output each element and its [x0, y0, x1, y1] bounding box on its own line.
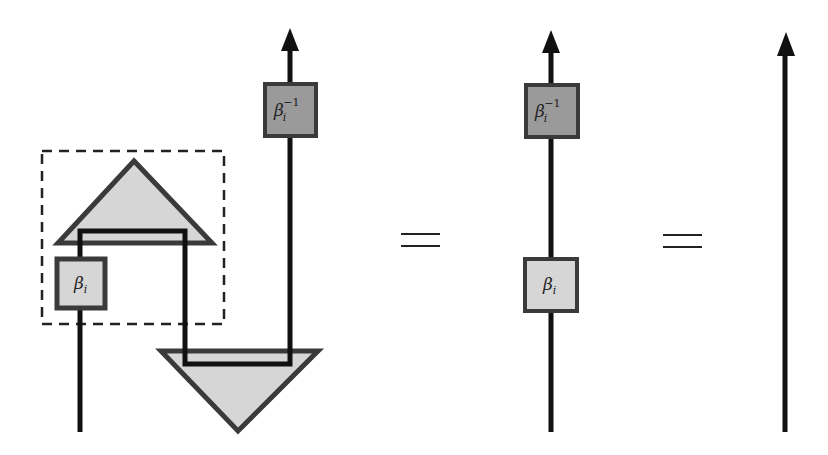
right-panel — [777, 32, 795, 432]
middle-panel: βi−1 βi — [525, 30, 578, 432]
left-panel: βi βi−1 — [42, 28, 318, 432]
arrow-up-icon — [542, 30, 560, 53]
arrow-up-icon — [777, 32, 795, 56]
arrow-up-icon — [281, 28, 299, 51]
beta-i-inverse-box — [526, 85, 578, 137]
beta-i-inverse-box — [265, 84, 316, 136]
equals-sign-1 — [401, 234, 440, 246]
equals-sign-2 — [663, 235, 702, 247]
diagram-canvas: βi βi−1 βi−1 βi — [0, 0, 828, 455]
